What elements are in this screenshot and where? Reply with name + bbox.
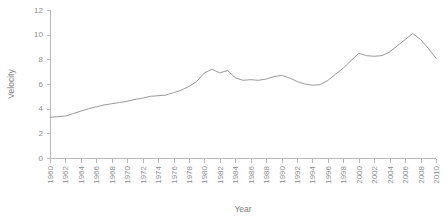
x-tick-label: 1980 <box>200 165 209 183</box>
x-tick-label: 1992 <box>293 165 302 183</box>
x-tick-label: 1998 <box>339 165 348 183</box>
x-tick-label: 1990 <box>278 165 287 183</box>
x-tick-label: 2002 <box>370 165 379 183</box>
x-tick-label: 1974 <box>154 165 163 183</box>
x-tick-label: 1960 <box>46 165 55 183</box>
y-tick-label: 2 <box>39 129 44 138</box>
x-tick-label: 2010 <box>432 165 441 183</box>
x-tick-label: 1968 <box>108 165 117 183</box>
x-tick-label: 2000 <box>355 165 364 183</box>
x-tick-label: 2008 <box>417 165 426 183</box>
x-tick-label: 1962 <box>61 165 70 183</box>
x-tick-label: 1982 <box>216 165 225 183</box>
y-tick-label: 12 <box>34 6 43 15</box>
x-tick-label: 2006 <box>401 165 410 183</box>
x-tick-label: 1994 <box>308 165 317 183</box>
y-tick-label: 4 <box>39 104 44 113</box>
y-axis-title: Velocity <box>6 69 16 99</box>
y-tick-label: 0 <box>39 154 44 163</box>
x-tick-label: 2004 <box>386 165 395 183</box>
x-tick-label: 1972 <box>139 165 148 183</box>
x-tick-label: 1996 <box>324 165 333 183</box>
y-tick-label: 10 <box>34 30 43 39</box>
x-tick-label: 1976 <box>170 165 179 183</box>
y-tick-label: 6 <box>39 80 44 89</box>
x-axis: 1960196219641966196819701972197419761978… <box>46 159 441 184</box>
x-tick-label: 1988 <box>262 165 271 183</box>
x-axis-title: Year <box>234 204 251 214</box>
y-tick-label: 8 <box>39 55 44 64</box>
velocity-year-line-chart: 024681012 196019621964196619681970197219… <box>0 0 448 221</box>
chart-canvas: 024681012 196019621964196619681970197219… <box>0 0 448 221</box>
series-polyline <box>50 33 436 117</box>
y-axis: 024681012 <box>34 6 50 163</box>
x-tick-label: 1978 <box>185 165 194 183</box>
x-tick-label: 1986 <box>247 165 256 183</box>
x-tick-label: 1970 <box>123 165 132 183</box>
x-tick-label: 1966 <box>92 165 101 183</box>
x-tick-label: 1984 <box>231 165 240 183</box>
data-series-velocity <box>50 33 436 117</box>
x-tick-label: 1964 <box>77 165 86 183</box>
